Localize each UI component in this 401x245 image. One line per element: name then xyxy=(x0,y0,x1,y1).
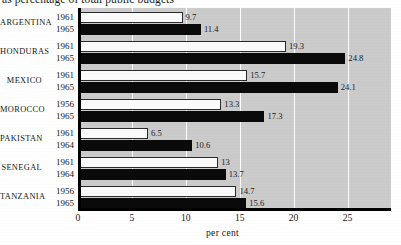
gridline xyxy=(240,8,241,211)
category-label: SENEGAL xyxy=(0,164,42,172)
gridline xyxy=(294,8,295,211)
bar xyxy=(78,99,221,110)
bar-value-label: 14.7 xyxy=(239,187,254,196)
y-axis-line xyxy=(78,8,81,211)
x-tick-label: 10 xyxy=(181,213,191,223)
year-label: 1956 xyxy=(56,187,74,196)
bar xyxy=(78,128,148,139)
bar xyxy=(78,169,226,180)
chart-title: as percentage of total public budgets xyxy=(2,0,262,6)
bar-value-label: 17.3 xyxy=(267,112,282,121)
gridline xyxy=(348,8,349,211)
bar-chart: as percentage of total public budgets AR… xyxy=(0,0,401,245)
category-label: MOROCCO xyxy=(0,106,42,114)
bar-value-label: 13.7 xyxy=(229,170,244,179)
bar xyxy=(78,82,338,93)
x-tick-label: 20 xyxy=(289,213,299,223)
year-label: 1965 xyxy=(56,83,74,92)
bar xyxy=(78,186,236,197)
x-axis-title: per cent xyxy=(0,228,401,238)
bar xyxy=(78,111,264,122)
bar-value-label: 24.1 xyxy=(341,83,356,92)
bar-value-label: 13.3 xyxy=(224,100,239,109)
category-labels: ARGENTINAHONDURASMEXICOMOROCCOPAKISTANSE… xyxy=(0,8,42,211)
year-label: 1964 xyxy=(56,170,74,179)
x-tick-label: 25 xyxy=(343,213,353,223)
x-axis-line xyxy=(78,208,391,211)
bar-value-label: 11.4 xyxy=(204,25,219,34)
bar xyxy=(78,24,201,35)
x-axis-title-text: per cent xyxy=(206,228,239,238)
year-label: 1965 xyxy=(56,112,74,121)
category-label: ARGENTINA xyxy=(0,19,42,27)
bar-value-label: 10.6 xyxy=(195,141,210,150)
year-label: 1961 xyxy=(56,13,74,22)
bar-value-label: 15.6 xyxy=(249,199,264,208)
bar-value-label: 9.7 xyxy=(186,13,197,22)
category-label: PAKISTAN xyxy=(0,135,42,143)
bar-value-label: 24.8 xyxy=(348,54,363,63)
year-label: 1956 xyxy=(56,100,74,109)
x-tick-label: 15 xyxy=(235,213,245,223)
x-tick-label: 0 xyxy=(76,213,81,223)
category-label: HONDURAS xyxy=(0,48,42,56)
year-label: 1965 xyxy=(56,54,74,63)
bar xyxy=(78,157,218,168)
bar xyxy=(78,41,286,52)
bar-value-label: 15.7 xyxy=(250,71,265,80)
year-label: 1961 xyxy=(56,158,74,167)
x-tick-label: 5 xyxy=(129,213,134,223)
category-label: MEXICO xyxy=(0,77,42,85)
plot-area xyxy=(78,8,391,211)
bar xyxy=(78,70,247,81)
year-label: 1961 xyxy=(56,129,74,138)
year-label: 1965 xyxy=(56,199,74,208)
year-label: 1965 xyxy=(56,25,74,34)
year-label: 1961 xyxy=(56,42,74,51)
year-label: 1964 xyxy=(56,141,74,150)
year-labels: 1961196519611965196119651956196519611964… xyxy=(44,8,75,211)
year-label: 1961 xyxy=(56,71,74,80)
bar xyxy=(78,140,192,151)
bar xyxy=(78,12,183,23)
bar xyxy=(78,53,345,64)
bar-value-label: 19.3 xyxy=(289,42,304,51)
bar-value-label: 13 xyxy=(221,158,230,167)
bar-value-label: 6.5 xyxy=(151,129,162,138)
category-label: TANZANIA xyxy=(0,193,42,201)
